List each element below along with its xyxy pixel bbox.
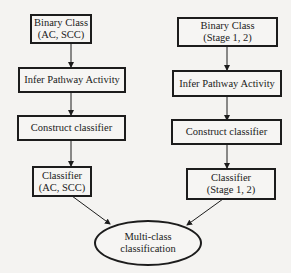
right-classifier-box: Classifier (Stage 1, 2)	[186, 168, 276, 200]
left-construct-classifier-label: Construct classifier	[31, 122, 112, 134]
multi-class-classification-node: Multi-class classification	[94, 220, 202, 266]
left-infer-pathway-box: Infer Pathway Activity	[18, 67, 126, 93]
arrow-left-classifier-to-output	[72, 196, 110, 224]
right-classifier-line1: Classifier	[211, 172, 251, 184]
left-binary-class-line1: Binary Class	[34, 17, 88, 29]
left-infer-pathway-label: Infer Pathway Activity	[24, 74, 120, 86]
output-line1: Multi-class	[124, 231, 171, 243]
arrow-right-classifier-to-output	[187, 199, 223, 225]
flowchart-diagram: Binary Class (AC, SCC) Infer Pathway Act…	[0, 0, 291, 273]
right-binary-class-box: Binary Class (Stage 1, 2)	[177, 17, 278, 47]
left-classifier-line2: (AC, SCC)	[39, 182, 86, 194]
left-binary-class-box: Binary Class (AC, SCC)	[30, 14, 92, 44]
left-classifier-box: Classifier (AC, SCC)	[32, 166, 92, 197]
right-binary-class-line1: Binary Class	[201, 20, 255, 32]
right-infer-pathway-box: Infer Pathway Activity	[172, 70, 282, 97]
right-construct-classifier-box: Construct classifier	[171, 119, 282, 145]
output-line2: classification	[120, 243, 175, 255]
right-infer-pathway-label: Infer Pathway Activity	[179, 78, 275, 90]
right-construct-classifier-label: Construct classifier	[186, 126, 267, 138]
left-construct-classifier-box: Construct classifier	[17, 115, 126, 141]
left-binary-class-line2: (AC, SCC)	[38, 29, 85, 41]
right-classifier-line2: (Stage 1, 2)	[207, 184, 256, 196]
right-binary-class-line2: (Stage 1, 2)	[203, 32, 252, 44]
left-classifier-line1: Classifier	[42, 170, 82, 182]
